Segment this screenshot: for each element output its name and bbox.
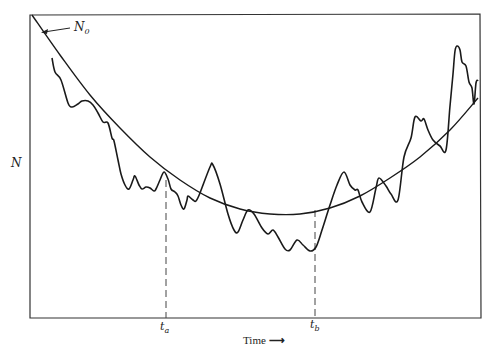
y-axis-label-text: N xyxy=(11,156,22,170)
ta-label-sub: a xyxy=(164,326,169,335)
y-axis-label: N xyxy=(11,156,22,170)
ta-label: ta xyxy=(160,320,169,335)
x-axis-label-text: Time xyxy=(243,334,266,346)
n0-label-sub: 0 xyxy=(85,27,90,36)
tb-label: tb xyxy=(310,318,320,333)
n0-arrow-line xyxy=(44,28,70,32)
plot-frame xyxy=(30,14,481,318)
right-arrow-icon: ⟶ xyxy=(269,334,285,346)
tb-label-sub: b xyxy=(314,324,319,333)
fluctuating-n-curve xyxy=(52,46,478,251)
n0-label-main: N xyxy=(74,20,85,34)
n0-label: N0 xyxy=(74,20,90,36)
x-axis-label: Time ⟶ xyxy=(243,334,285,347)
chart-canvas xyxy=(0,0,487,354)
